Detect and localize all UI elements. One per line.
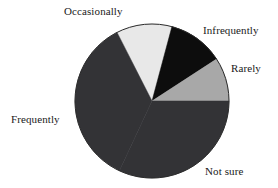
slice-label-frequently: Frequently	[11, 114, 60, 125]
slice-label-not-sure: Not sure	[205, 166, 243, 177]
pie-chart-figure: Occasionally Infrequently Rarely Frequen…	[0, 0, 278, 188]
slice-label-rarely: Rarely	[231, 63, 261, 74]
pie-slices-group	[75, 24, 229, 178]
slice-label-infrequently: Infrequently	[203, 25, 259, 36]
slice-label-occasionally: Occasionally	[64, 6, 123, 17]
